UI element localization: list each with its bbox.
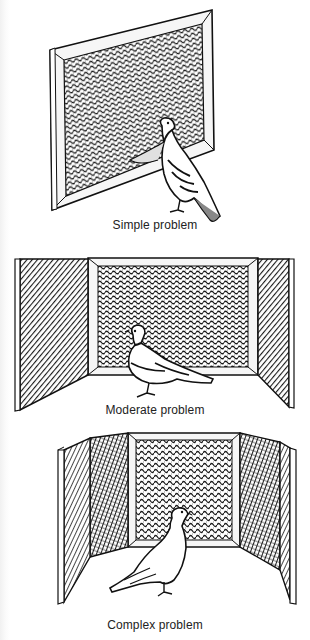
right-outer-wall [280,442,290,600]
caption-moderate-problem: Moderate problem [0,403,310,417]
caption-complex-problem: Complex problem [0,618,310,632]
caption-simple-problem: Simple problem [0,218,310,232]
panel-complex-problem: Complex problem [0,420,310,640]
panel-moderate-problem: Moderate problem [0,235,310,420]
simple-problem-illustration [0,0,310,235]
left-wall [20,259,88,410]
right-inner-wall [240,433,280,570]
left-inner-wall [90,433,128,557]
complex-problem-illustration [0,420,310,640]
moderate-problem-illustration [0,235,310,420]
back-wall-mesh [98,266,248,367]
back-wall-mesh [136,440,232,540]
panel-simple-problem: Simple problem [0,0,310,235]
left-outer-wall [64,438,90,602]
right-wall [258,259,289,407]
